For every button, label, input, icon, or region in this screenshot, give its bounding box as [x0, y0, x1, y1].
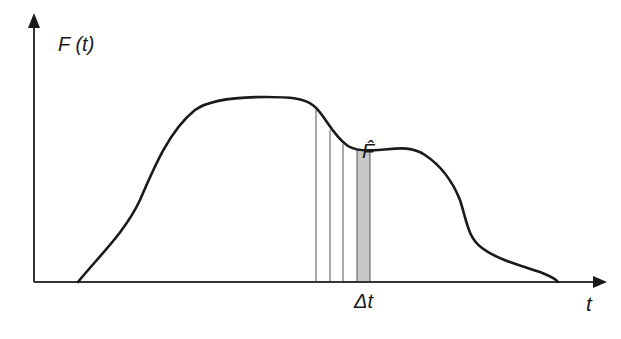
- function-curve: [78, 97, 558, 282]
- f-hat-label: F̂: [362, 140, 374, 163]
- y-axis-arrow-icon: [28, 13, 40, 28]
- shaded-strip-delta-t: [357, 150, 370, 282]
- x-axis-arrow-icon: [593, 276, 607, 288]
- x-axis-label: t: [586, 292, 592, 316]
- y-axis-label: F (t): [58, 33, 94, 56]
- delta-t-label: Δt: [354, 290, 373, 313]
